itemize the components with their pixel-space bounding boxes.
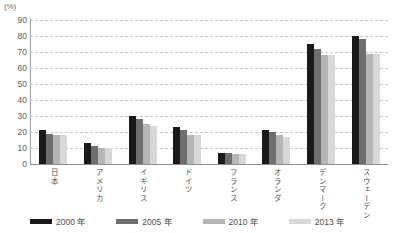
legend-swatch-icon — [116, 219, 138, 224]
bar[interactable] — [91, 146, 98, 164]
bar[interactable] — [194, 135, 201, 164]
legend-label: 2005 年 — [142, 215, 172, 227]
bar[interactable] — [225, 153, 232, 164]
legend-item-1[interactable]: 2000 年 — [30, 215, 86, 227]
bar-group-4 — [165, 20, 210, 164]
category-label-8: スウェーデン — [343, 168, 388, 212]
y-axis-unit-label: (%) — [4, 2, 16, 11]
bar-group-6 — [254, 20, 299, 164]
category-label-text: スウェーデン — [361, 168, 369, 212]
legend-swatch-icon — [30, 219, 52, 224]
bar[interactable] — [180, 130, 187, 164]
bar[interactable] — [307, 44, 314, 164]
y-tick-label-40: 40 — [1, 95, 27, 105]
bar[interactable] — [60, 135, 67, 164]
bar-groups — [31, 20, 388, 164]
bar-group-1 — [31, 20, 76, 164]
y-tick-label-70: 70 — [1, 47, 27, 57]
bar-group-3 — [120, 20, 165, 164]
category-label-5: フランス — [210, 168, 255, 212]
legend-item-2[interactable]: 2005 年 — [116, 215, 172, 227]
bar[interactable] — [352, 36, 359, 164]
legend-label: 2000 年 — [56, 215, 86, 227]
bar[interactable] — [143, 124, 150, 164]
bar[interactable] — [373, 54, 380, 164]
y-axis-tick-labels: 9080706050403020100 — [0, 20, 27, 164]
bar[interactable] — [239, 154, 246, 164]
bar[interactable] — [328, 55, 335, 164]
bar[interactable] — [283, 137, 290, 164]
y-tick-label-0: 0 — [1, 159, 27, 169]
bar[interactable] — [314, 49, 321, 164]
bar[interactable] — [84, 143, 91, 164]
category-axis-labels: 日本アメリカイギリスドイツフランスオランダデンマークスウェーデン — [31, 168, 388, 212]
legend-label: 2010 年 — [229, 215, 259, 227]
bar[interactable] — [150, 126, 157, 164]
y-tick-label-20: 20 — [1, 127, 27, 137]
gridline-0 — [30, 164, 388, 165]
bar[interactable] — [187, 135, 194, 164]
bar[interactable] — [232, 154, 239, 164]
y-tick-label-90: 90 — [1, 15, 27, 25]
category-label-text: ドイツ — [183, 168, 191, 212]
legend-item-3[interactable]: 2010 年 — [203, 215, 259, 227]
category-label-2: アメリカ — [76, 168, 121, 212]
bar[interactable] — [98, 148, 105, 164]
y-tick-label-10: 10 — [1, 143, 27, 153]
bar[interactable] — [366, 54, 373, 164]
category-label-text: 日本 — [49, 168, 57, 212]
bar-group-5 — [210, 20, 255, 164]
category-label-6: オランダ — [254, 168, 299, 212]
category-label-1: 日本 — [31, 168, 76, 212]
legend-swatch-icon — [289, 219, 311, 224]
bar[interactable] — [53, 135, 60, 164]
bar[interactable] — [136, 119, 143, 164]
bar[interactable] — [129, 116, 136, 164]
bar[interactable] — [262, 130, 269, 164]
y-tick-label-50: 50 — [1, 79, 27, 89]
category-label-4: ドイツ — [165, 168, 210, 212]
legend-label: 2013 年 — [315, 215, 345, 227]
y-tick-label-60: 60 — [1, 63, 27, 73]
bar[interactable] — [218, 153, 225, 164]
bar[interactable] — [269, 132, 276, 164]
category-label-text: アメリカ — [94, 168, 102, 212]
chart-legend: 2000 年2005 年2010 年2013 年 — [30, 213, 390, 229]
bar[interactable] — [173, 127, 180, 164]
legend-item-4[interactable]: 2013 年 — [289, 215, 345, 227]
bar[interactable] — [39, 130, 46, 164]
category-label-text: オランダ — [272, 168, 280, 212]
category-label-text: フランス — [228, 168, 236, 212]
bar[interactable] — [276, 135, 283, 164]
category-label-text: デンマーク — [317, 168, 325, 212]
category-label-3: イギリス — [120, 168, 165, 212]
y-tick-label-30: 30 — [1, 111, 27, 121]
bar[interactable] — [321, 55, 328, 164]
bar[interactable] — [359, 39, 366, 164]
bar-group-7 — [299, 20, 344, 164]
bar-chart: (%) 9080706050403020100 日本アメリカイギリスドイツフラン… — [0, 0, 395, 233]
bar[interactable] — [46, 134, 53, 164]
category-label-text: イギリス — [138, 168, 146, 212]
category-label-7: デンマーク — [299, 168, 344, 212]
bar[interactable] — [105, 148, 112, 164]
y-tick-label-80: 80 — [1, 31, 27, 41]
legend-swatch-icon — [203, 219, 225, 224]
bar-group-2 — [76, 20, 121, 164]
bar-group-8 — [343, 20, 388, 164]
